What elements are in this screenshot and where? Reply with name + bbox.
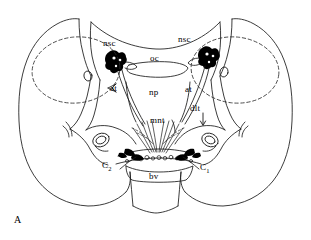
- label-at-right: at: [185, 85, 192, 94]
- label-c1-subscript: 1: [206, 167, 209, 174]
- nsc-right-tail: [188, 58, 200, 65]
- nsc-left-blob-cluster: [105, 50, 127, 73]
- right-inner-wall: [211, 80, 225, 130]
- label-dlt: dlt: [190, 104, 200, 113]
- oc-lens-shape: [127, 62, 188, 78]
- left-dorsal-channel-outer: [79, 19, 91, 76]
- ventral-caudal-margin: [133, 206, 178, 213]
- label-mnt: mnt: [150, 116, 165, 125]
- right-lobe-outline: [185, 19, 292, 206]
- at-right-tract-a: [182, 66, 205, 122]
- left-inner-wall: [86, 80, 100, 130]
- label-nsc-right: nsc: [178, 35, 191, 44]
- label-oc: oc: [150, 54, 159, 63]
- at-left-tract-b: [118, 72, 143, 126]
- label-nsc-left: nsc: [103, 39, 116, 48]
- anatomical-figure-panel-a: nsc nsc oc at at np dlt mnt bv C2 C1 A: [0, 0, 311, 240]
- left-foramen-outer: [91, 131, 112, 150]
- label-at-left: at: [110, 84, 117, 93]
- bv-band-outline: [126, 166, 193, 182]
- left-dorsal-channel-inner: [90, 22, 100, 80]
- right-foramen-outer: [200, 131, 221, 150]
- ventral-right-column: [178, 172, 181, 206]
- right-foramen-inner: [204, 135, 216, 146]
- right-ala-lower-edge: [203, 129, 241, 165]
- label-c1: C1: [200, 163, 210, 172]
- panel-label-a: A: [14, 214, 21, 225]
- left-tip-hook-b: [63, 126, 69, 137]
- left-foramen-inner: [95, 135, 107, 146]
- label-np: np: [149, 88, 158, 97]
- left-lateral-wall: [70, 76, 91, 129]
- left-ala-upper-edge: [86, 126, 136, 144]
- left-lobe-hilum-circle: [83, 70, 93, 82]
- label-bv: bv: [149, 172, 158, 181]
- label-c2-subscript: 2: [108, 165, 111, 172]
- label-c2: C2: [102, 161, 112, 170]
- mnt-fiber-fan: [133, 121, 183, 153]
- right-lobe-ventral-edge: [181, 172, 185, 192]
- right-lobe-dashed-ellipse: [188, 33, 282, 108]
- ventral-left-column: [130, 172, 133, 206]
- right-tip-hook-b: [242, 126, 248, 137]
